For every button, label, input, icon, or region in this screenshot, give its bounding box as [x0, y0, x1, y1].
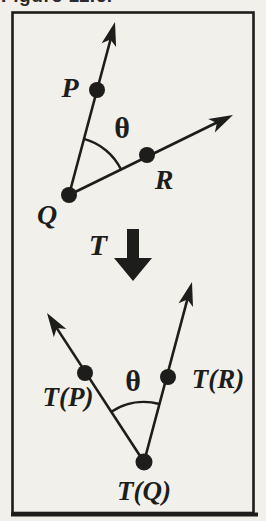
point-r-dot	[139, 147, 155, 163]
label-tq: T(Q)	[117, 476, 171, 506]
point-tq-dot	[136, 454, 153, 471]
label-theta-upper: θ	[114, 111, 130, 144]
theta-arc-lower	[111, 402, 159, 412]
label-theta-lower: θ	[125, 364, 141, 397]
figure-page: Figure 11.6. P Q R θ T	[0, 0, 266, 521]
label-p: P	[60, 72, 79, 103]
arrowhead-icon	[47, 313, 66, 337]
label-tp: T(P)	[43, 382, 94, 412]
point-q-dot	[61, 187, 77, 203]
upper-diagram: P Q R θ	[37, 22, 233, 230]
point-tp-dot	[77, 365, 93, 381]
transformation-figure: P Q R θ T T(P) θ T(R)	[0, 0, 266, 521]
label-t: T	[89, 228, 109, 261]
thick-down-arrow-icon	[114, 229, 152, 281]
transform-indicator: T	[89, 228, 152, 281]
label-q: Q	[37, 199, 57, 230]
ray-q-to-p	[69, 34, 112, 195]
lower-diagram: T(P) θ T(R) T(Q)	[43, 282, 245, 506]
label-tr: T(R)	[192, 364, 244, 394]
label-r: R	[154, 164, 174, 195]
point-p-dot	[89, 82, 105, 98]
point-tr-dot	[160, 369, 176, 385]
